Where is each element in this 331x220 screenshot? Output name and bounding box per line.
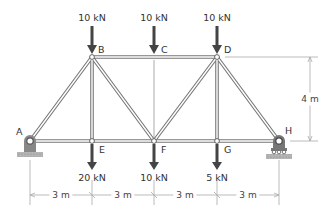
arrow-down-icon xyxy=(87,26,97,54)
dimension-label-ae: 3 m xyxy=(49,191,72,200)
pin-support-a xyxy=(17,135,43,157)
arrow-down-icon xyxy=(212,26,222,54)
node-label-f: F xyxy=(161,145,166,155)
truss-diagram: 10 kN 10 kN 10 kN 20 kN 10 kN 5 kN A B C… xyxy=(0,0,331,220)
top-load-arrows xyxy=(87,26,222,54)
node-label-c: C xyxy=(161,45,168,55)
node-label-b: B xyxy=(98,45,105,55)
load-label-e: 20 kN xyxy=(78,173,106,183)
joint-e xyxy=(90,139,95,144)
load-label-f: 10 kN xyxy=(140,173,168,183)
node-label-e: E xyxy=(99,145,105,155)
arrow-down-icon xyxy=(87,144,97,170)
arrow-down-icon xyxy=(149,26,159,54)
roller-support-h xyxy=(266,135,292,159)
roller-icon xyxy=(277,150,281,154)
load-label-b: 10 kN xyxy=(78,13,106,23)
load-label-c: 10 kN xyxy=(140,13,168,23)
node-label-g: G xyxy=(224,145,231,155)
dimension-label-gh: 3 m xyxy=(236,191,259,200)
pin-icon xyxy=(27,138,33,144)
truss-svg xyxy=(0,0,331,220)
roller-icon xyxy=(272,150,276,154)
joint-f xyxy=(152,139,157,144)
joints xyxy=(90,55,220,144)
bottom-load-arrows xyxy=(87,144,222,170)
dimension-label-ef: 3 m xyxy=(111,191,134,200)
truss-members xyxy=(30,57,279,141)
roller-icon xyxy=(282,150,286,154)
joint-b xyxy=(90,55,95,60)
arrow-down-icon xyxy=(149,144,159,170)
joint-g xyxy=(215,139,220,144)
dimension-label-fg: 3 m xyxy=(173,191,196,200)
node-label-d: D xyxy=(224,45,231,55)
dimension-label-height: 4 m xyxy=(300,93,319,106)
load-label-d: 10 kN xyxy=(203,13,231,23)
node-label-a: A xyxy=(16,127,23,137)
arrow-down-icon xyxy=(212,144,222,170)
node-label-h: H xyxy=(285,126,292,136)
pin-icon xyxy=(276,138,282,144)
joint-d xyxy=(215,55,220,60)
load-label-g: 5 kN xyxy=(206,173,228,183)
dimension-lines xyxy=(30,57,318,205)
